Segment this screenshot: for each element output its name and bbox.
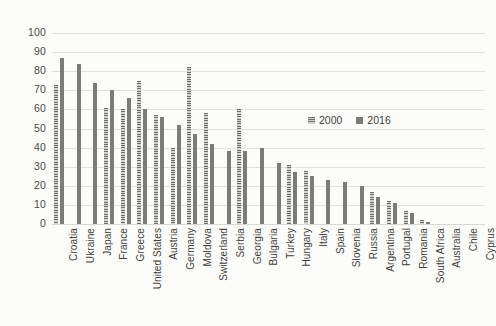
- x-axis-label-text: Japan: [102, 228, 113, 256]
- bar-slovenia-2016: [343, 182, 347, 224]
- x-axis-label-romania: Romania: [414, 228, 425, 269]
- bar-argentina-2000: [370, 192, 374, 224]
- bar-group: [235, 33, 252, 224]
- bar-group: [69, 33, 86, 224]
- y-axis-tick-0: 0: [0, 217, 46, 229]
- bar-croatia-2000: [54, 85, 58, 224]
- bar-bulgaria-2016: [260, 148, 264, 224]
- bar-switzerland-2000: [204, 113, 208, 224]
- bar-italy-2016: [310, 176, 314, 224]
- x-axis-label-text: Italy: [318, 228, 329, 247]
- x-axis-label-text: Romania: [418, 228, 429, 269]
- x-axis-label-turkey: Turkey: [281, 228, 292, 259]
- bar-group: [102, 33, 119, 224]
- x-axis-label-text: Moldova: [202, 228, 213, 267]
- x-axis-label-text: Switzerland: [218, 228, 229, 281]
- bar-france-2000: [104, 108, 108, 225]
- plot-area: [52, 33, 485, 224]
- x-axis-label-text: Bulgaria: [268, 228, 279, 266]
- x-axis-label-japan: Japan: [98, 228, 109, 256]
- bar-group: [368, 33, 385, 224]
- bar-group: [85, 33, 102, 224]
- x-axis-label-spain: Spain: [331, 228, 342, 254]
- bar-group: [185, 33, 202, 224]
- x-axis-label-text: Hungary: [301, 228, 312, 267]
- bar-group: [318, 33, 335, 224]
- x-axis-label-australia: Australia: [447, 228, 458, 268]
- gridline-0: [52, 224, 485, 225]
- bar-hungary-2000: [287, 165, 291, 224]
- y-axis: 1009080706050403020100: [0, 33, 46, 224]
- bar-georgia-2016: [243, 151, 247, 224]
- bar-group: [418, 33, 435, 224]
- bar-germany-2016: [177, 125, 181, 224]
- y-axis-tick-100: 100: [0, 26, 46, 38]
- legend-item-2000: 2000: [308, 115, 342, 126]
- bar-germany-2000: [171, 148, 175, 224]
- bar-south-africa-2000: [420, 220, 424, 224]
- x-axis-label-text: Georgia: [252, 228, 263, 264]
- x-axis-label-portugal: Portugal: [397, 228, 408, 266]
- y-axis-tick-60: 60: [0, 102, 46, 114]
- bar-serbia-2016: [227, 151, 231, 224]
- x-axis-label-greece: Greece: [131, 228, 142, 261]
- bar-france-2016: [110, 90, 114, 224]
- bar-greece-2000: [121, 109, 125, 224]
- x-axis-label-ukraine: Ukraine: [81, 228, 92, 263]
- bar-group: [135, 33, 152, 224]
- x-axis-label-text: Spain: [335, 228, 346, 254]
- bar-group: [52, 33, 69, 224]
- bar-group: [202, 33, 219, 224]
- x-axis-label-text: Greece: [135, 228, 146, 261]
- bar-group: [385, 33, 402, 224]
- bar-group: [302, 33, 319, 224]
- bar-group: [269, 33, 286, 224]
- x-axis-label-serbia: Serbia: [231, 228, 242, 258]
- x-axis-label-text: Chile: [468, 228, 479, 251]
- bar-south-africa-2016: [426, 222, 430, 224]
- x-axis-label-bulgaria: Bulgaria: [264, 228, 275, 266]
- bar-moldova-2016: [193, 134, 197, 224]
- y-axis-tick-70: 70: [0, 83, 46, 95]
- x-axis-label-united-states: United States: [148, 228, 159, 289]
- x-axis-label-text: France: [118, 228, 129, 260]
- y-axis-tick-20: 20: [0, 179, 46, 191]
- x-axis-label-argentina: Argentina: [381, 228, 392, 272]
- bar-group: [285, 33, 302, 224]
- bar-group: [119, 33, 136, 224]
- bar-group: [169, 33, 186, 224]
- x-axis-label-text: Austria: [168, 228, 179, 260]
- bar-turkey-2016: [277, 163, 281, 224]
- x-axis-label-cyprus: Cyprus: [481, 228, 492, 260]
- y-axis-tick-80: 80: [0, 64, 46, 76]
- legend-label-2000: 2000: [319, 115, 342, 126]
- y-axis-tick-50: 50: [0, 122, 46, 134]
- y-axis-tick-90: 90: [0, 45, 46, 57]
- x-axis-label-austria: Austria: [164, 228, 175, 260]
- x-axis-label-germany: Germany: [181, 228, 192, 270]
- legend-item-2016: 2016: [356, 115, 390, 126]
- x-axis-label-croatia: Croatia: [64, 228, 75, 261]
- x-axis-label-text: Slovenia: [351, 228, 362, 267]
- x-axis-label-moldova: Moldova: [198, 228, 209, 267]
- x-axis-labels: CroatiaUkraineJapanFranceGreeceUnited St…: [52, 228, 485, 324]
- legend-swatch-2016-icon: [356, 117, 363, 124]
- legend-swatch-2000-icon: [308, 117, 315, 124]
- x-axis-label-russia: Russia: [364, 228, 375, 259]
- x-axis-label-france: France: [114, 228, 125, 260]
- bar-moldova-2000: [187, 67, 191, 224]
- bar-portugal-2016: [393, 203, 397, 224]
- x-axis-label-south-africa: South Africa: [431, 228, 442, 283]
- bar-united-states-2016: [143, 109, 147, 224]
- bar-group: [335, 33, 352, 224]
- x-axis-label-text: Turkey: [285, 228, 296, 259]
- bar-russia-2016: [360, 186, 364, 224]
- x-axis-label-text: Australia: [451, 228, 462, 268]
- x-axis-label-chile: Chile: [464, 228, 475, 251]
- bar-spain-2016: [326, 180, 330, 224]
- y-axis-tick-40: 40: [0, 141, 46, 153]
- x-axis-label-text: Serbia: [235, 228, 246, 258]
- bar-argentina-2016: [376, 197, 380, 224]
- bar-italy-2000: [304, 171, 308, 224]
